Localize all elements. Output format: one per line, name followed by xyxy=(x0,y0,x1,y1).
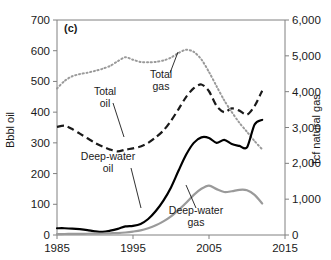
panel-label: (c) xyxy=(64,22,78,34)
left-tick-label: 500 xyxy=(31,75,50,87)
left-axis-ticks: 0100200300400500600700 xyxy=(31,14,57,241)
plot-frame xyxy=(57,20,285,235)
right-axis-title: Tcf natural gas xyxy=(310,94,322,166)
right-tick-label: 0 xyxy=(292,229,298,241)
annotation-label: Total xyxy=(150,68,172,80)
leader-total-oil xyxy=(113,103,124,137)
annotation-label: gas xyxy=(153,80,170,92)
series-line-deep-water-oil xyxy=(57,120,262,232)
right-tick-label: 6,000 xyxy=(292,14,321,26)
left-axis-title: Bbbl oil xyxy=(4,112,16,148)
right-tick-label: 1,000 xyxy=(292,193,321,205)
leader-deep-water-oil xyxy=(131,168,141,208)
series-line-total-oil xyxy=(57,84,262,151)
annotation-deep-water-oil: Deep-wateroil xyxy=(81,150,136,174)
annotation-deep-water-gas: Deep-watergas xyxy=(169,204,224,228)
series-line-deep-water-gas xyxy=(57,186,262,235)
annotation-total-gas: Totalgas xyxy=(150,68,172,92)
dual-axis-line-chart: 0100200300400500600700 01,0002,0003,0004… xyxy=(0,0,331,260)
annotation-label: Deep-water xyxy=(81,150,136,162)
left-tick-label: 0 xyxy=(44,229,50,241)
bottom-tick-label: 1995 xyxy=(120,242,146,254)
left-tick-label: 300 xyxy=(31,137,50,149)
chart-figure: 0100200300400500600700 01,0002,0003,0004… xyxy=(0,0,331,260)
annotation-label: oil xyxy=(103,162,114,174)
left-tick-label: 700 xyxy=(31,14,50,26)
annotation-label: gas xyxy=(188,216,205,228)
left-tick-label: 400 xyxy=(31,106,50,118)
annotation-layer: TotalgasTotaloilDeep-wateroilDeep-waterg… xyxy=(81,68,224,228)
annotation-label: oil xyxy=(100,97,111,109)
bottom-tick-label: 2005 xyxy=(196,242,222,254)
left-tick-label: 600 xyxy=(31,45,50,57)
annotation-label: Total xyxy=(94,85,116,97)
left-tick-label: 100 xyxy=(31,198,50,210)
right-tick-label: 5,000 xyxy=(292,50,321,62)
bottom-tick-label: 2015 xyxy=(272,242,298,254)
annotation-total-oil: Totaloil xyxy=(94,85,116,109)
left-tick-label: 200 xyxy=(31,168,50,180)
annotation-label: Deep-water xyxy=(169,204,224,216)
bottom-axis-ticks: 1985199520052015 xyxy=(44,235,298,254)
bottom-tick-label: 1985 xyxy=(44,242,70,254)
